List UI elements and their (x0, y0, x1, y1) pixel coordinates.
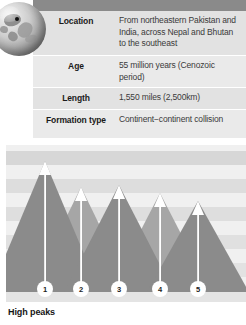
peak-number: 2 (79, 285, 83, 294)
fact-value: 1,550 miles (2,500km) (119, 92, 244, 104)
fact-label: Age (33, 60, 119, 73)
fact-label: Formation type (33, 114, 119, 127)
fact-label: Length (33, 92, 119, 105)
table-row: Formation type Continent−continent colli… (33, 110, 246, 139)
peak-number: 3 (117, 285, 121, 294)
fact-table: Location From northeastern Pakistan and … (33, 11, 246, 139)
fact-value: Continent−continent collision (119, 114, 244, 126)
table-row: Age 55 million years (Cenozoic period) (33, 56, 246, 88)
list-item[interactable]: 5 (190, 281, 206, 297)
location-marker-dot-icon (15, 17, 19, 21)
list-item[interactable]: 4 (152, 281, 168, 297)
peak-number: 1 (43, 285, 47, 294)
table-row: Location From northeastern Pakistan and … (33, 11, 246, 56)
illustration-stage: 1 2 3 4 (6, 145, 246, 302)
mountain-illustration: 1 2 3 4 (0, 141, 246, 325)
fact-table-panel: Location From northeastern Pakistan and … (0, 0, 246, 138)
list-item[interactable]: 2 (73, 281, 89, 297)
globe-sphere (0, 2, 46, 56)
peaks-chart: 1 2 3 4 (6, 145, 246, 302)
fact-value: 55 million years (Cenozoic period) (119, 60, 244, 83)
globe-icon (0, 2, 46, 56)
fact-value: From northeastern Pakistan and India, ac… (119, 15, 244, 50)
illustration-caption: High peaks (8, 307, 55, 317)
list-item[interactable]: 3 (111, 281, 127, 297)
panel-header-bar (33, 0, 246, 11)
infographic-page: Location From northeastern Pakistan and … (0, 0, 246, 325)
peak-number: 5 (196, 285, 200, 294)
list-item[interactable]: 1 (37, 281, 53, 297)
globe-rim-shading (0, 2, 46, 56)
table-row: Length 1,550 miles (2,500km) (33, 88, 246, 110)
